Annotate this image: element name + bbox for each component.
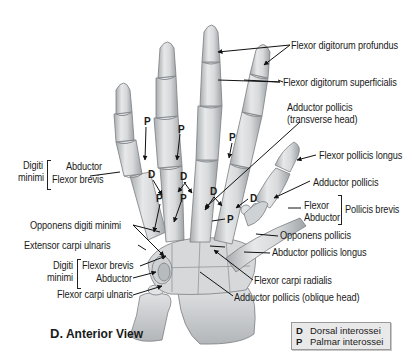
view-title: D. Anterior View <box>50 326 143 341</box>
marker-dorsal-1: D <box>148 169 155 180</box>
label-digiti-minimi-upper-1: Digiti <box>23 160 43 171</box>
label-digiti-minimi-upper-2: minimi <box>18 172 44 183</box>
label-flexor-carpi-ulnaris: Flexor carpi ulnaris <box>57 289 133 300</box>
label-flexor-pollicis-longus: Flexor pollicis longus <box>319 150 402 161</box>
middle-middle <box>200 62 222 106</box>
view-title-text: Anterior View <box>66 327 143 341</box>
label-dm-abductor-lower: Abductor <box>96 273 132 284</box>
ring-middle <box>156 76 178 118</box>
label-flexor-carpi-radialis: Flexor carpi radialis <box>254 275 332 286</box>
digiti-minimi-upper-bracket <box>47 160 51 190</box>
thumb-distal-phalanx <box>275 142 299 172</box>
label-flexor-digitorum-superficialis: Flexor digitorum superficialis <box>283 77 397 88</box>
index-distal <box>250 44 270 78</box>
middle-proximal <box>196 106 222 160</box>
legend-item-palmar: PPalmar interossei <box>296 336 383 347</box>
label-pollicis-brevis: Pollicis brevis <box>345 204 399 215</box>
label-adductor-pollicis-transverse: Adductor pollicis <box>287 102 352 113</box>
marker-dorsal-3: D <box>210 186 217 197</box>
little-middle <box>114 112 134 142</box>
label-adductor-pollicis: Adductor pollicis <box>313 177 378 188</box>
label-dm-abductor-upper: Abductor <box>66 161 102 172</box>
label-pollicis-flexor: Flexor <box>304 200 329 211</box>
label-digiti-minimi-lower-1: Digiti <box>53 260 73 271</box>
label-flexor-digitorum-profundus: Flexor digitorum profundus <box>291 40 398 51</box>
ring-distal <box>158 42 176 78</box>
label-dm-flexor-brevis-lower: Flexor brevis <box>82 260 133 271</box>
marker-palmar-6: P <box>227 214 234 225</box>
little-distal <box>116 83 132 114</box>
label-digiti-minimi-lower-2: minimi <box>47 272 73 283</box>
legend-key-d: D <box>296 325 310 336</box>
label-extensor-carpi-ulnaris: Extensor carpi ulnaris <box>24 240 110 251</box>
label-adductor-pollicis-transverse-head: (transverse head) <box>287 114 358 125</box>
middle-metacarpal <box>190 160 218 242</box>
label-pollicis-abductor: Abductor <box>304 212 340 223</box>
marker-palmar-4: P <box>156 193 163 204</box>
label-dm-flexor-brevis-upper: Flexor brevis <box>52 174 103 185</box>
index-metacarpal <box>214 164 250 244</box>
marker-dorsal-2: D <box>180 171 187 182</box>
view-title-letter: D. <box>50 326 63 341</box>
digiti-minimi-lower-bracket <box>77 259 81 289</box>
legend-box: DDorsal interossei PPalmar interossei <box>291 322 391 350</box>
legend-item-dorsal: DDorsal interossei <box>296 325 381 336</box>
label-opponens-digiti-minimi: Opponens digiti minimi <box>30 220 121 231</box>
marker-palmar-1: P <box>144 116 151 127</box>
marker-palmar-5: P <box>180 193 187 204</box>
little-metacarpal <box>130 172 166 240</box>
marker-palmar-3: P <box>229 132 236 143</box>
middle-distal <box>202 25 220 62</box>
marker-dorsal-4: D <box>250 193 257 204</box>
marker-palmar-2: P <box>178 124 185 135</box>
legend-text-dorsal: Dorsal interossei <box>310 325 381 336</box>
label-adductor-pollicis-oblique: Adductor pollicis (oblique head) <box>234 292 359 303</box>
label-opponens-pollicis: Opponens pollicis <box>280 230 351 241</box>
legend-text-palmar: Palmar interossei <box>310 336 383 347</box>
label-abductor-pollicis-longus: Abductor pollicis longus <box>272 247 366 258</box>
little-proximal <box>116 140 142 176</box>
pollicis-brevis-bracket <box>338 195 342 225</box>
legend-key-p: P <box>296 336 310 347</box>
